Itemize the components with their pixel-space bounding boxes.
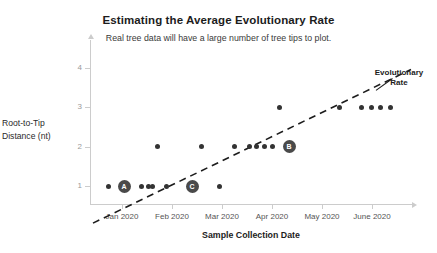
data-point <box>262 144 267 149</box>
data-point <box>164 184 169 189</box>
labeled-data-point-c: C <box>186 180 199 193</box>
y-tick-label: 3 <box>68 102 82 111</box>
data-point <box>199 144 204 149</box>
y-tick-label: 2 <box>68 142 82 151</box>
x-axis-arrow-icon <box>412 202 417 208</box>
x-tick-mark <box>372 204 373 209</box>
data-point <box>254 144 259 149</box>
data-point <box>270 144 275 149</box>
labeled-data-point-b: B <box>283 140 296 153</box>
data-point <box>150 184 155 189</box>
x-tick-mark <box>272 204 273 209</box>
data-point <box>139 184 144 189</box>
chart-subtitle: Real tree data will have a large number … <box>0 33 437 43</box>
data-point <box>217 184 222 189</box>
x-tick-mark <box>172 204 173 209</box>
x-tick-mark <box>322 204 323 209</box>
evolutionary-rate-scatter-figure: Estimating the Average Evolutionary Rate… <box>0 0 437 253</box>
y-axis-arrow-icon <box>88 34 94 39</box>
x-tick-mark <box>222 204 223 209</box>
data-point <box>232 144 237 149</box>
data-point <box>106 184 111 189</box>
annotation-line: Rate <box>366 78 432 88</box>
y-tick-mark <box>85 107 90 108</box>
y-axis-line <box>90 40 91 205</box>
labeled-data-point-a: A <box>118 180 131 193</box>
evolutionary-rate-annotation-label: EvolutionaryRate <box>366 68 432 88</box>
data-point <box>155 144 160 149</box>
x-axis-label: Sample Collection Date <box>90 230 412 240</box>
chart-title: Estimating the Average Evolutionary Rate <box>0 14 437 26</box>
data-point <box>337 105 342 110</box>
x-tick-mark <box>122 204 123 209</box>
data-point <box>277 105 282 110</box>
data-point <box>378 105 383 110</box>
evolutionary-rate-trendline <box>93 69 411 223</box>
x-tick-label: June 2020 <box>337 212 407 221</box>
x-axis-line <box>90 204 412 205</box>
y-tick-mark <box>85 186 90 187</box>
y-tick-mark <box>85 147 90 148</box>
data-point <box>359 105 364 110</box>
y-tick-label: 1 <box>68 181 82 190</box>
data-point <box>388 105 393 110</box>
data-point <box>369 105 374 110</box>
data-point <box>247 144 252 149</box>
y-axis-label: Root-to-Tip Distance (nt) <box>2 117 68 142</box>
y-tick-label: 4 <box>68 63 82 72</box>
annotation-line: Evolutionary <box>366 68 432 78</box>
y-tick-mark <box>85 68 90 69</box>
